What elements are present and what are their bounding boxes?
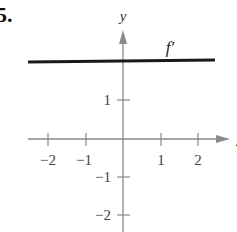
y-tick-label: −1 bbox=[95, 169, 111, 185]
f-prime-label: f′ bbox=[166, 38, 175, 57]
x-tick-label: −2 bbox=[40, 152, 56, 168]
y-axis-arrow-icon bbox=[119, 30, 127, 44]
y-tick-label: 1 bbox=[104, 92, 112, 108]
derivative-graph: −2 −1 1 2 1 −1 −2 y x f′ bbox=[0, 0, 237, 232]
y-tick-label: −2 bbox=[95, 207, 111, 223]
x-tick-label: 2 bbox=[194, 152, 202, 168]
x-tick-label: 1 bbox=[157, 152, 165, 168]
y-axis-label: y bbox=[118, 8, 127, 24]
x-axis-arrow-icon bbox=[216, 135, 230, 143]
x-axis-label: x bbox=[235, 133, 237, 149]
x-tick-label: −1 bbox=[76, 152, 92, 168]
f-prime-curve bbox=[28, 60, 215, 62]
